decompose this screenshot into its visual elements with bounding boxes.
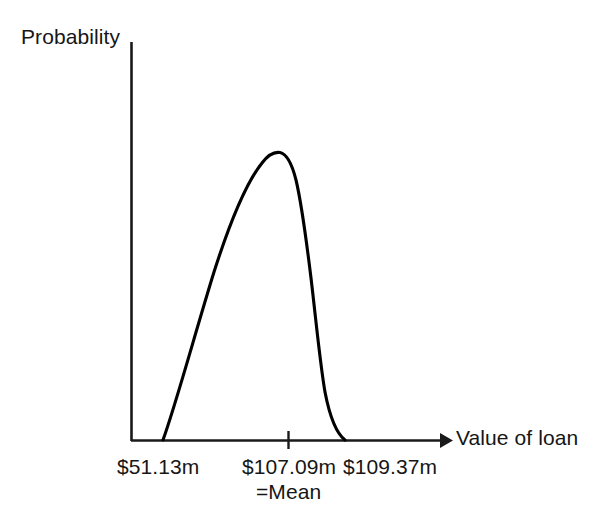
probability-density-curve [163,152,345,440]
x-tick-label-min: $51.13m [117,456,199,477]
x-tick-label-max: $109.37m [343,456,437,477]
probability-distribution-chart: Probability Value of loan $51.13m $107.0… [0,0,598,515]
y-axis-label: Probability [21,26,120,47]
x-axis-arrowhead [440,433,453,448]
x-tick-label-mean: $107.09m [242,456,336,477]
x-axis-label: Value of loan [456,427,578,448]
x-tick-label-mean-caption: =Mean [256,481,321,502]
